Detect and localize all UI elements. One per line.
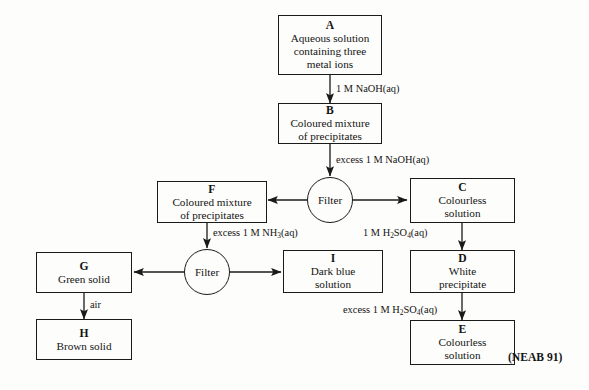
diagram-page: A Aqueous solution containing three meta… — [0, 0, 589, 390]
edge-label-d-to-e: excess 1 M H2SO4(aq) — [343, 305, 437, 316]
node-h[interactable]: H Brown solid — [36, 319, 132, 360]
edge-label-g-to-h: air — [90, 300, 101, 310]
exam-board-credit: (NEAB 91) — [508, 351, 562, 364]
node-c-body: Colourless solution — [439, 194, 487, 220]
edge-label-c-to-d: 1 M H2SO4(aq) — [363, 228, 428, 239]
node-b-tag: B — [326, 104, 334, 117]
node-f[interactable]: F Coloured mixture of precipitates — [157, 181, 267, 223]
node-b-body: Coloured mixture of precipitates — [290, 117, 369, 143]
filter-lower-label: Filter — [195, 266, 219, 278]
node-h-body: Brown solid — [56, 340, 111, 353]
filter-upper-label: Filter — [318, 194, 342, 206]
node-a[interactable]: A Aqueous solution containing three meta… — [278, 15, 382, 75]
node-c[interactable]: C Colourless solution — [410, 178, 515, 223]
node-i-tag: I — [331, 252, 336, 265]
node-a-tag: A — [326, 19, 335, 32]
node-i-body: Dark blue solution — [311, 265, 355, 291]
node-g-tag: G — [79, 260, 88, 273]
node-h-tag: H — [79, 327, 88, 340]
node-e-tag: E — [459, 323, 467, 336]
edge-label-a-to-b: 1 M NaOH(aq) — [336, 84, 399, 94]
node-g[interactable]: G Green solid — [36, 252, 132, 293]
node-g-body: Green solid — [58, 273, 110, 286]
node-i[interactable]: I Dark blue solution — [283, 250, 383, 293]
node-f-body: Coloured mixture of precipitates — [172, 196, 251, 222]
edge-label-f-to-filter2: excess 1 M NH3(aq) — [213, 228, 298, 239]
node-f-tag: F — [208, 183, 215, 196]
node-c-tag: C — [458, 181, 467, 194]
node-d[interactable]: D White precipitate — [410, 250, 515, 293]
node-d-body: White precipitate — [439, 265, 486, 291]
filter-node-lower[interactable]: Filter — [184, 249, 230, 295]
node-e[interactable]: E Colourless solution — [410, 320, 515, 365]
node-e-body: Colourless solution — [439, 336, 487, 362]
node-d-tag: D — [458, 252, 467, 265]
filter-node-upper[interactable]: Filter — [307, 177, 353, 223]
node-a-body: Aqueous solution containing three metal … — [291, 32, 370, 70]
edge-label-b-to-filter1: excess 1 M NaOH(aq) — [336, 155, 429, 165]
node-b[interactable]: B Coloured mixture of precipitates — [278, 103, 382, 144]
